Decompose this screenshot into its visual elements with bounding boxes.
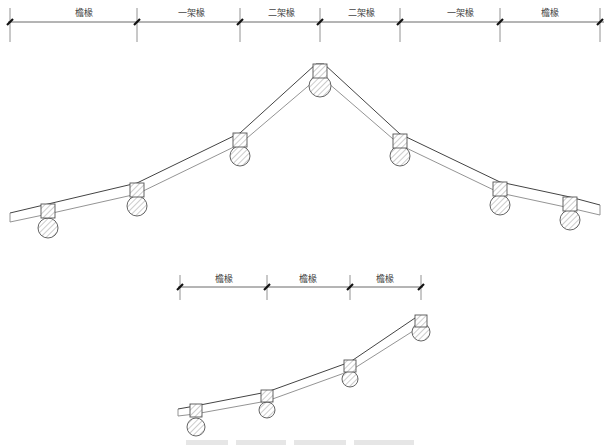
rafter-upper-edge bbox=[10, 64, 600, 213]
purlin-b2 bbox=[259, 390, 275, 418]
dim-label-first-rafter-right: 一架椽 bbox=[447, 7, 474, 18]
rafter-upper-edge bbox=[178, 318, 415, 409]
purlin-3 bbox=[230, 133, 250, 166]
dim-label-second-rafter-right: 二架椽 bbox=[348, 7, 375, 18]
dimension-ticks bbox=[7, 8, 603, 42]
dim-label-eave-rafter-3: 檐椽 bbox=[376, 273, 394, 284]
purlin-1 bbox=[38, 204, 58, 238]
rafter-diagram: 檐椽 一架椽 二架椽 二架椽 一架椽 檐椽 bbox=[0, 0, 611, 446]
purlin-6 bbox=[490, 182, 510, 215]
purlin-5 bbox=[390, 134, 410, 166]
dim-label-first-rafter-left: 一架椽 bbox=[178, 7, 205, 18]
dim-label-second-rafter-left: 二架椽 bbox=[268, 7, 295, 18]
dim-label-eave-rafter-left: 檐椽 bbox=[75, 7, 93, 18]
ridge-purlin bbox=[309, 64, 331, 97]
top-dimension-line: 檐椽 一架椽 二架椽 二架椽 一架椽 檐椽 bbox=[7, 7, 604, 42]
purlin-7 bbox=[560, 197, 580, 230]
purlin-2 bbox=[127, 183, 147, 216]
purlin-b3 bbox=[342, 360, 358, 387]
purlin-b1 bbox=[187, 404, 205, 436]
dim-label-eave-rafter-1: 檐椽 bbox=[215, 273, 233, 284]
bottom-roof-section bbox=[178, 315, 430, 436]
purlin-b4 bbox=[412, 315, 430, 341]
figure-caption bbox=[186, 440, 414, 445]
bottom-dimension-line: 檐椽 檐椽 檐椽 bbox=[177, 273, 424, 300]
dim-label-eave-rafter-right: 檐椽 bbox=[541, 7, 559, 18]
top-roof-section bbox=[10, 64, 600, 238]
rafter-lower-edge bbox=[10, 76, 600, 222]
dim-label-eave-rafter-2: 檐椽 bbox=[299, 273, 317, 284]
